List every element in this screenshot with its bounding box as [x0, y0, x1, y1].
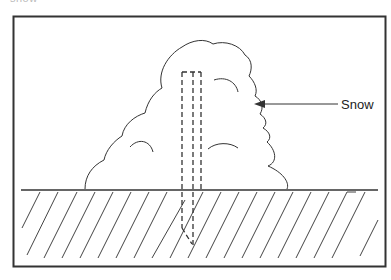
snow-inner-arc-right: [208, 144, 238, 149]
ground-hatching: [22, 192, 378, 258]
snow-label: Snow: [341, 97, 374, 112]
snow-inner-arc-top: [214, 79, 238, 92]
diagram-canvas: [0, 0, 391, 280]
snow-inner-arc-left: [130, 141, 153, 152]
diagram-frame: [14, 17, 386, 267]
stake-dashed: [182, 72, 201, 248]
snow-mound: [85, 40, 288, 189]
arrow-head-icon: [254, 100, 265, 108]
